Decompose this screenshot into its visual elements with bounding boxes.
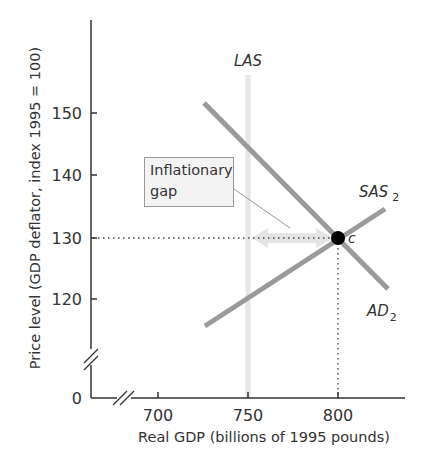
- x-tick-800: 800: [323, 406, 354, 425]
- y-tick-150: 150: [51, 104, 82, 123]
- origin-label: 0: [72, 389, 82, 408]
- sas-curve: [205, 209, 385, 326]
- y-tick-140: 140: [51, 166, 82, 185]
- gap-label-line1: Inflationary: [150, 160, 228, 181]
- point-c: [331, 231, 345, 245]
- gap-label-line2: gap: [150, 181, 228, 202]
- sas-label: SAS2: [359, 183, 399, 204]
- ad-label: AD2: [366, 302, 397, 324]
- point-c-label: c: [348, 230, 356, 246]
- x-tick-700: 700: [143, 406, 174, 425]
- las-label: LAS: [234, 52, 263, 70]
- y-tick-120: 120: [51, 290, 82, 309]
- y-tick-130: 130: [51, 229, 82, 248]
- x-tick-750: 750: [233, 406, 264, 425]
- gap-leader-line: [234, 189, 290, 228]
- inflationary-gap-callout: Inflationary gap: [144, 157, 234, 207]
- x-axis-title: Real GDP (billions of 1995 pounds): [138, 429, 390, 445]
- chart: 150 140 130 120 0 700 750 800 Real GDP (…: [0, 0, 427, 471]
- y-axis-title: Price level (GDP deflator, index 1995 = …: [27, 47, 43, 369]
